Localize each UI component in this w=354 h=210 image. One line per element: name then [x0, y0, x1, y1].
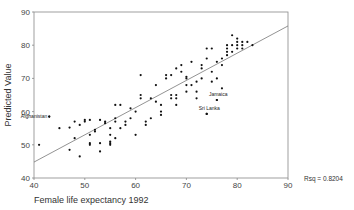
data-point [140, 97, 142, 99]
data-point [175, 67, 177, 69]
data-point [231, 51, 233, 53]
annotation-label: Sri Lanka [199, 105, 220, 111]
data-point [114, 117, 116, 119]
data-point [160, 111, 162, 113]
data-point [68, 149, 70, 151]
data-point [216, 77, 218, 79]
data-point [145, 124, 147, 126]
data-point [226, 44, 228, 46]
data-point [160, 114, 162, 116]
rsq-label: Rsq = 0.8204 [304, 175, 343, 183]
data-point [221, 87, 223, 89]
data-point [74, 137, 76, 139]
data-point [236, 41, 238, 43]
data-point [109, 127, 111, 129]
data-point [175, 94, 177, 96]
data-point [170, 97, 172, 99]
data-point [206, 47, 208, 49]
data-point [84, 120, 86, 122]
data-point [180, 64, 182, 66]
data-point [150, 97, 152, 99]
data-point [190, 61, 192, 63]
data-point [206, 57, 208, 59]
data-point [226, 47, 228, 49]
annotated-point [216, 99, 218, 101]
data-point [114, 120, 116, 122]
data-point [221, 64, 223, 66]
data-point [58, 127, 60, 129]
data-point [241, 47, 243, 49]
y-tick-label: 70 [21, 74, 30, 83]
data-point [195, 81, 197, 83]
data-point [175, 97, 177, 99]
data-point [155, 101, 157, 103]
data-point [170, 94, 172, 96]
data-point [165, 77, 167, 79]
data-point [155, 84, 157, 86]
data-point [79, 155, 81, 157]
x-tick-label: 60 [131, 181, 140, 190]
data-point [104, 120, 106, 122]
data-point [241, 44, 243, 46]
data-point [129, 117, 131, 119]
data-point [246, 41, 248, 43]
y-axis: 405060708090 [21, 8, 34, 183]
data-point [68, 126, 70, 128]
y-tick-label: 90 [21, 8, 30, 17]
annotation-label: Afghanistan [21, 113, 48, 119]
data-point [251, 44, 253, 46]
data-point [38, 144, 40, 146]
data-point [79, 124, 81, 126]
data-point [236, 47, 238, 49]
data-point [195, 91, 197, 93]
x-tick-label: 70 [182, 181, 191, 190]
data-point [170, 74, 172, 76]
data-point [109, 144, 111, 146]
data-point [226, 51, 228, 53]
scatter-chart: 405060708090 405060708090 AfghanistanJam… [0, 0, 354, 210]
data-point [124, 120, 126, 122]
data-point [119, 104, 121, 106]
data-point [114, 104, 116, 106]
data-point [185, 91, 187, 93]
data-point [165, 74, 167, 76]
y-tick-label: 50 [21, 141, 30, 150]
annotation-label: Jamaica [209, 91, 228, 97]
x-tick-label: 80 [233, 181, 242, 190]
data-point [99, 150, 101, 152]
data-point [185, 84, 187, 86]
data-point [114, 137, 116, 139]
x-axis: 405060708090 [30, 178, 293, 190]
data-point [201, 77, 203, 79]
x-tick-label: 50 [80, 181, 89, 190]
data-point [180, 71, 182, 73]
data-point [201, 64, 203, 66]
plot-area [34, 12, 288, 178]
y-axis-title: Predicted Value [3, 64, 13, 127]
data-point [135, 134, 137, 136]
data-point [216, 61, 218, 63]
data-point [109, 140, 111, 142]
data-point [135, 111, 137, 113]
y-tick-label: 80 [21, 41, 30, 50]
data-point [201, 67, 203, 69]
data-point [140, 94, 142, 96]
x-tick-label: 90 [284, 181, 293, 190]
data-point [129, 107, 131, 109]
data-point [124, 124, 126, 126]
x-tick-label: 40 [30, 181, 39, 190]
data-point [74, 120, 76, 122]
data-point [99, 142, 101, 144]
data-point [89, 144, 91, 146]
data-point [236, 44, 238, 46]
data-point [89, 119, 91, 121]
data-point [89, 134, 91, 136]
data-point [211, 81, 213, 83]
data-point [140, 74, 142, 76]
data-point [145, 120, 147, 122]
data-point [211, 71, 213, 73]
data-point [109, 134, 111, 136]
data-point [190, 84, 192, 86]
x-axis-title: Female life expectancy 1992 [34, 195, 149, 205]
data-point [195, 97, 197, 99]
